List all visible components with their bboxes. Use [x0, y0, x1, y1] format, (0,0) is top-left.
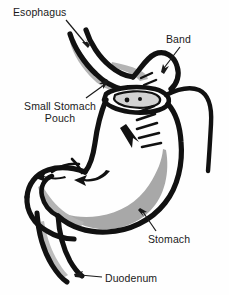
- antrum-upper-curve: [27, 168, 85, 197]
- label-small-stomach-pouch: Small Stomach Pouch: [12, 100, 108, 124]
- band-connector-tube: [166, 88, 211, 171]
- rugae-line-4: [139, 133, 159, 138]
- label-stomach: Stomach: [148, 233, 190, 245]
- label-small-stomach-pouch-line2: Pouch: [45, 112, 75, 124]
- rugae-line-3: [137, 123, 157, 129]
- band-port-dot-right: [138, 97, 142, 101]
- pouch-hatch-2: [144, 80, 156, 85]
- label-small-stomach-pouch-line1: Small Stomach: [24, 100, 96, 112]
- rugae-line-5: [142, 143, 161, 147]
- label-esophagus: Esophagus: [13, 6, 66, 18]
- label-duodenum: Duodenum: [105, 272, 157, 284]
- label-band: Band: [166, 33, 191, 45]
- leader-band-head: [161, 64, 169, 74]
- anatomy-illustration: [0, 0, 229, 295]
- gastric-band-diagram: Esophagus Band Small Stomach Pouch Stoma…: [0, 0, 229, 295]
- leader-pouch-line: [86, 85, 104, 98]
- band-port-dot-left: [125, 98, 130, 103]
- flow-arrow-body: [120, 124, 139, 148]
